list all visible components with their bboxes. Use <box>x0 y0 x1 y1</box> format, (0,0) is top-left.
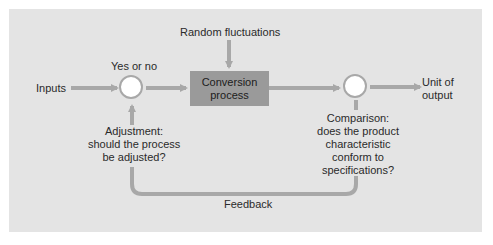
adjustment-label: Adjustment: should the process be adjust… <box>88 125 180 164</box>
adjustment-label-1: Adjustment: <box>88 125 180 138</box>
inputs-label: Inputs <box>36 82 66 95</box>
output-label: Unit of output <box>422 76 454 102</box>
adjustment-label-3: be adjusted? <box>88 151 180 164</box>
process-label-1: Conversion <box>202 76 258 89</box>
comparison-label-5: specifications? <box>310 164 406 177</box>
output-label-2: output <box>422 89 454 102</box>
adjustment-label-2: should the process <box>88 138 180 151</box>
process-label-2: process <box>210 89 249 102</box>
yes-or-no-label: Yes or no <box>111 60 157 73</box>
conversion-process-box: Conversion process <box>190 71 269 106</box>
comparison-label-3: characteristic <box>310 138 406 151</box>
feedback-label: Feedback <box>224 198 272 211</box>
random-fluctuations-label: Random fluctuations <box>180 26 280 39</box>
comparison-node <box>343 74 367 98</box>
comparison-label-1: Comparison: <box>310 112 406 125</box>
comparison-label: Comparison: does the product characteris… <box>310 112 406 177</box>
comparison-label-2: does the product <box>310 125 406 138</box>
output-label-1: Unit of <box>422 76 454 89</box>
comparison-label-4: conform to <box>310 151 406 164</box>
decision-node <box>119 75 143 99</box>
